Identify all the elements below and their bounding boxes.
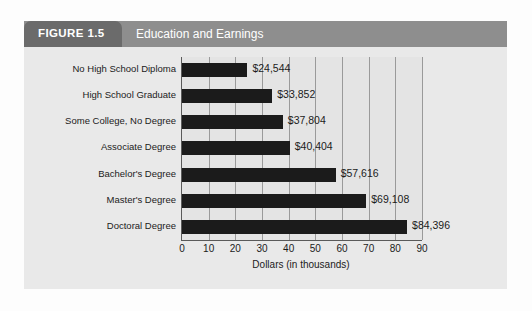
bar-row: Master's Degree$69,108 [182,188,422,214]
bar-value-label: $37,804 [288,114,326,126]
bar-row: Some College, No Degree$37,804 [182,109,422,135]
x-tick-label: 0 [170,243,194,254]
category-label: Bachelor's Degree [98,168,176,179]
x-tick-label: 80 [383,243,407,254]
bar-value-label: $57,616 [341,167,379,179]
bar-value-label: $84,396 [412,219,450,231]
x-axis-title: Dollars (in thousands) [181,259,421,270]
bar [182,89,272,103]
bar [182,115,283,129]
category-label: High School Graduate [83,89,176,100]
figure-card: FIGURE 1.5 Education and Earnings 010203… [24,21,507,289]
x-tick-label: 50 [303,243,327,254]
x-tick-label: 30 [250,243,274,254]
bar-row: Associate Degree$40,404 [182,135,422,161]
bar-row: Bachelor's Degree$57,616 [182,162,422,188]
category-label: Master's Degree [107,194,176,205]
bar-value-label: $24,544 [252,62,290,74]
bar-value-label: $69,108 [371,193,409,205]
x-tick-label: 10 [197,243,221,254]
x-tick-label: 20 [223,243,247,254]
bar-row: No High School Diploma$24,544 [182,57,422,83]
x-tick-label: 70 [357,243,381,254]
bar-value-label: $40,404 [295,140,333,152]
gridline [422,57,423,240]
plot-area: 0102030405060708090No High School Diplom… [181,57,422,241]
figure-number-tab: FIGURE 1.5 [24,21,122,47]
bar [182,63,247,77]
figure-title: Education and Earnings [136,27,263,41]
chart-body: 0102030405060708090No High School Diplom… [24,47,507,289]
figure-number-label: FIGURE 1.5 [38,27,105,39]
bar-row: High School Graduate$33,852 [182,83,422,109]
x-tick-label: 40 [277,243,301,254]
category-label: Some College, No Degree [65,115,176,126]
bar [182,220,407,234]
category-label: No High School Diploma [73,63,177,74]
bar [182,141,290,155]
x-tick-label: 60 [330,243,354,254]
category-label: Associate Degree [101,141,176,152]
figure-header: FIGURE 1.5 Education and Earnings [24,21,507,47]
category-label: Doctoral Degree [107,220,176,231]
bar [182,194,366,208]
bar-value-label: $33,852 [277,88,315,100]
bar [182,168,336,182]
bar-row: Doctoral Degree$84,396 [182,214,422,240]
x-tick-label: 90 [410,243,434,254]
